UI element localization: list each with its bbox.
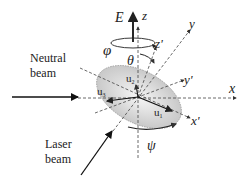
laser-beam-arrow <box>81 131 112 175</box>
label-y: y <box>187 16 195 31</box>
label-E: E <box>114 10 124 25</box>
neutral-beam-label-line2: beam <box>30 66 57 80</box>
label-x-prime: x' <box>190 113 200 128</box>
label-z: z <box>141 8 147 23</box>
molecule-orientation-diagram: E z z' y y' x x' φ θ ψ u1 u2 u3 Neutral … <box>0 0 251 182</box>
label-phi: φ <box>103 42 111 58</box>
neutral-beam-label-line1: Neutral <box>30 51 67 65</box>
laser-beam-label-line1: Laser <box>45 137 72 151</box>
label-y-prime: y' <box>182 72 193 87</box>
label-psi: ψ <box>147 138 156 153</box>
laser-beam-label-line2: beam <box>45 152 72 166</box>
label-z-prime: z' <box>154 36 163 51</box>
label-x: x <box>228 81 236 96</box>
label-theta: θ <box>127 53 134 68</box>
